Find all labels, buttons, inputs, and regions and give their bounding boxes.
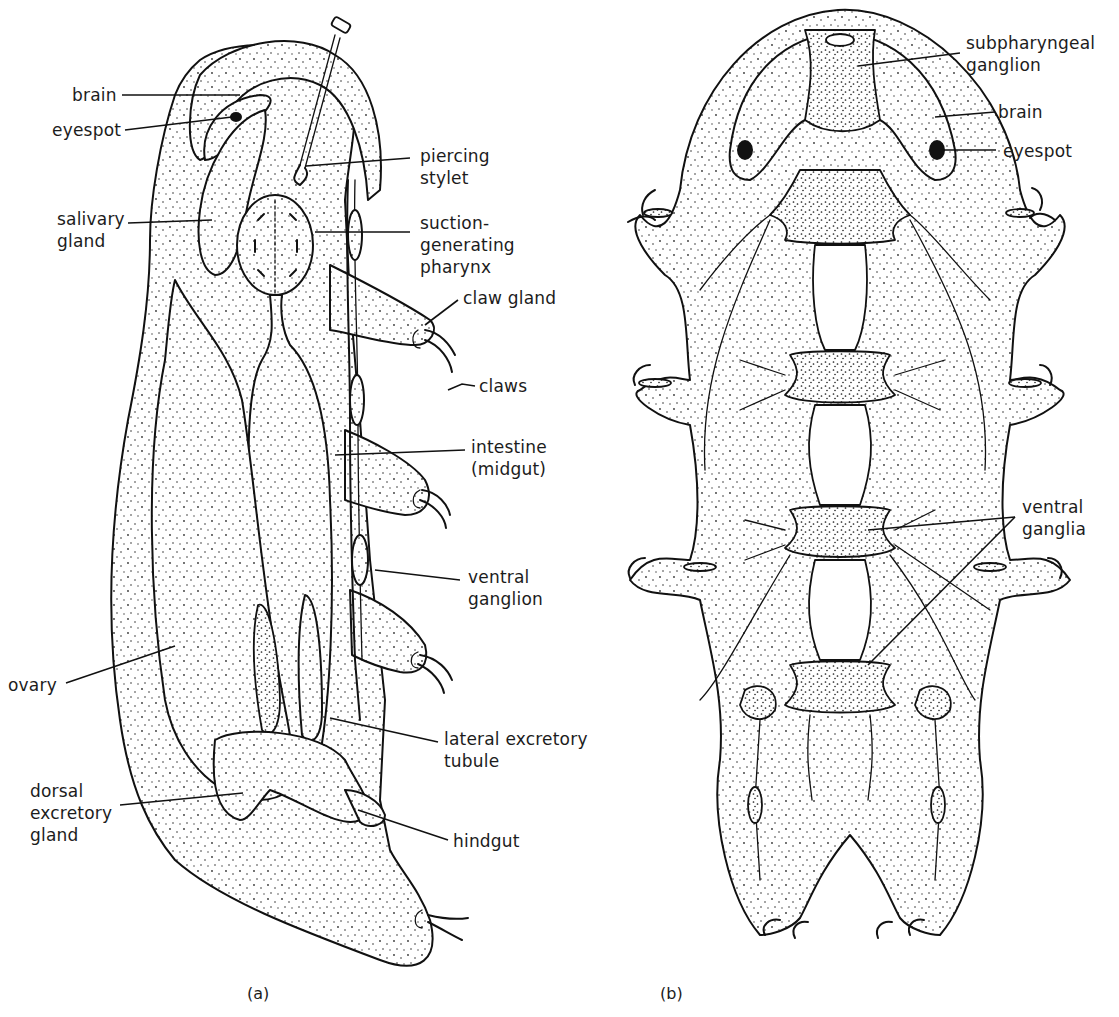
illustration-canvas [0, 0, 1119, 1017]
connective-gap-2 [809, 405, 871, 505]
caption-panel-b: (b) [660, 984, 683, 1003]
ganglion-2 [350, 375, 364, 425]
label-lateral-excretory-tubule: lateral excretory tubule [444, 728, 588, 772]
leg-gland-3l [684, 563, 716, 571]
ganglion-3 [352, 535, 368, 585]
label-subpharyngeal-ganglion: subpharyngeal ganglion [966, 32, 1095, 76]
label-eyespot-a: eyespot [52, 119, 121, 141]
ganglion-1 [348, 210, 362, 260]
label-brain-b: brain [998, 101, 1043, 123]
caption-panel-a: (a) [247, 984, 269, 1003]
hind-ganglion-left [740, 686, 776, 719]
leg-1 [330, 265, 434, 345]
label-ventral-ganglion: ventral ganglion [468, 566, 543, 610]
label-intestine: intestine (midgut) [471, 436, 547, 480]
label-piercing-stylet: piercing stylet [420, 145, 490, 189]
label-suction-pharynx: suction- generating pharynx [420, 212, 515, 278]
leg-gland-2l [639, 379, 671, 387]
mouth-b [826, 34, 854, 46]
leg-gland-1r [1006, 209, 1034, 217]
eyespot-b-left [737, 140, 753, 160]
hind-ganglion-right [915, 686, 951, 719]
ventral-ganglion-3 [785, 506, 895, 557]
pedal-ganglion-left [748, 787, 762, 823]
mouth-tube [331, 16, 352, 34]
panel-a-drawing [111, 16, 468, 966]
connective-gap-1 [813, 245, 867, 350]
ventral-ganglion-2 [785, 351, 895, 402]
leg-gland-1l [644, 209, 672, 217]
label-hindgut: hindgut [453, 830, 520, 852]
label-claws: claws [479, 375, 527, 397]
leg-gland-3r [974, 563, 1006, 571]
tardigrade-anatomy-figure: brain eyespot salivary gland piercing st… [0, 0, 1119, 1017]
leg-gland-2r [1009, 379, 1041, 387]
label-ovary: ovary [8, 674, 57, 696]
label-dorsal-excretory-gland: dorsal excretory gland [30, 780, 112, 846]
connective-gap-3 [809, 560, 871, 660]
label-eyespot-b: eyespot [1003, 140, 1072, 162]
label-ventral-ganglia: ventral ganglia [1022, 496, 1086, 540]
ventral-ganglion-4 [785, 661, 895, 712]
pedal-ganglion-right [931, 787, 945, 823]
label-salivary-gland: salivary gland [57, 208, 125, 252]
label-claw-gland: claw gland [463, 287, 556, 309]
label-brain-a: brain [72, 84, 117, 106]
